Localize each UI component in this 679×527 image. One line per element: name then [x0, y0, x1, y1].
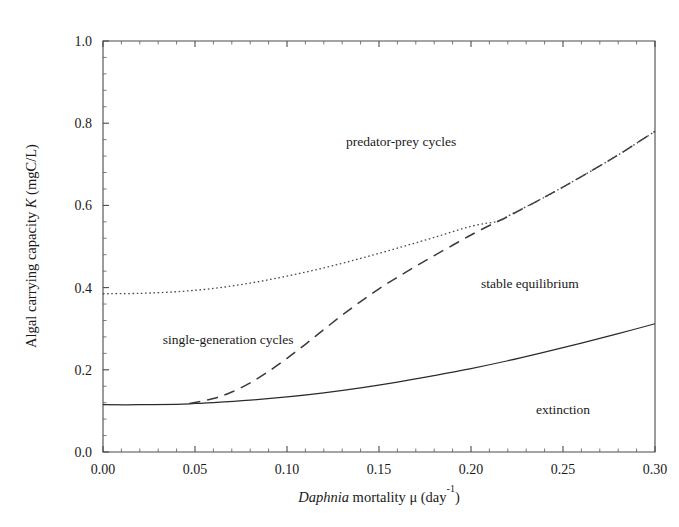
y-tick-label: 0.4: [75, 281, 93, 296]
figure-background: [0, 0, 679, 527]
x-tick-label: 0.15: [367, 462, 392, 477]
region-label-extinction: extinction: [536, 402, 590, 417]
y-axis-title: Algal carrying capacity K (mgC/L): [23, 144, 40, 348]
y-tick-label: 1.0: [75, 34, 93, 49]
bifurcation-diagram: 0.000.050.100.150.200.250.300.00.20.40.6…: [0, 0, 679, 527]
y-tick-label: 0.0: [75, 445, 93, 460]
x-tick-label: 0.10: [275, 462, 300, 477]
y-tick-label: 0.2: [75, 363, 93, 378]
x-tick-label: 0.00: [91, 462, 116, 477]
region-label-stable-equilibrium: stable equilibrium: [481, 276, 579, 291]
x-title-tail: ): [455, 489, 460, 506]
x-tick-label: 0.05: [183, 462, 208, 477]
region-label-predator-prey: predator-prey cycles: [346, 134, 456, 149]
y-title-units: (mgC/L): [23, 144, 40, 199]
region-label-single-generation: single-generation cycles: [163, 332, 294, 347]
svg-text:Algal carrying capacity K (mg: Algal carrying capacity K (mgC/L): [23, 144, 40, 348]
x-tick-label: 0.30: [643, 462, 668, 477]
x-title-genus: Daphnia: [297, 489, 349, 505]
x-tick-label: 0.25: [551, 462, 576, 477]
y-title-lead: Algal carrying capacity: [23, 208, 39, 348]
x-title-rest: mortality μ (day: [349, 489, 447, 506]
y-tick-label: 0.8: [75, 116, 93, 131]
y-tick-label: 0.6: [75, 198, 93, 213]
x-title-exponent: -1: [447, 483, 455, 494]
x-tick-label: 0.20: [459, 462, 484, 477]
